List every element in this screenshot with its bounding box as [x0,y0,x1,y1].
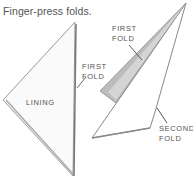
label-text: FIRST [82,62,107,72]
label-text: FOLD [82,72,107,82]
label-first-fold-left: FIRST FOLD [82,62,107,82]
label-second-fold: SECOND FOLD [159,124,193,144]
label-text: FOLD [112,34,137,44]
fold-illustration [0,0,193,181]
label-lining: LINING [26,98,55,108]
leader-second-fold [157,108,167,123]
label-text: FIRST [112,24,137,34]
diagram-finger-press-folds: Finger-press folds. FIRST FOLD LINING FI… [0,0,193,181]
label-first-fold-right: FIRST FOLD [112,24,137,44]
label-text: FOLD [159,134,193,144]
label-text: SECOND [159,124,193,134]
